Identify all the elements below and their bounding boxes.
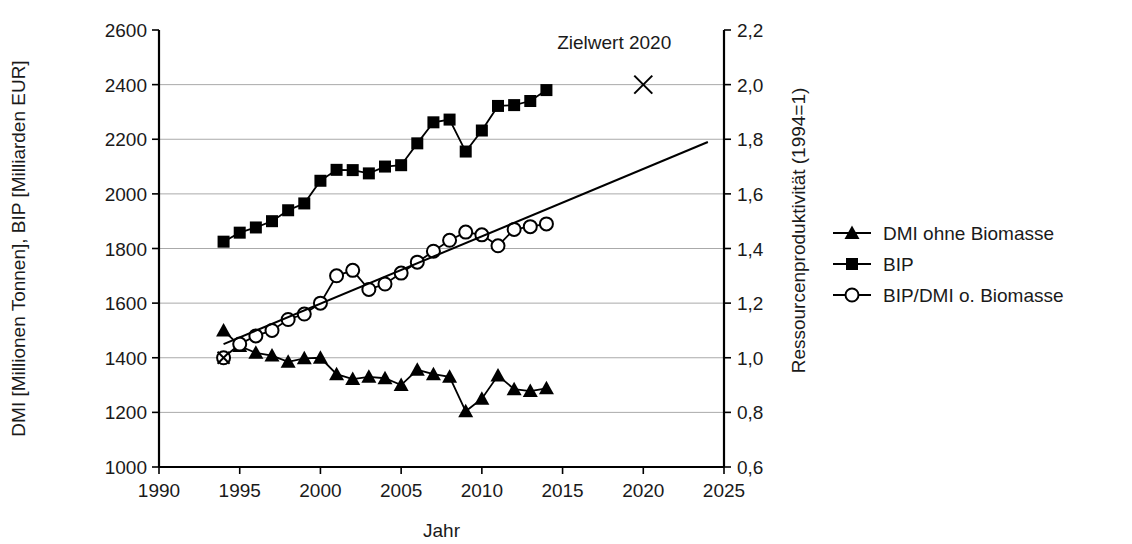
marker-square: [444, 114, 456, 126]
marker-square: [508, 99, 520, 111]
marker-square: [250, 221, 262, 233]
tick-label-x: 2000: [299, 480, 341, 501]
marker-triangle: [361, 369, 376, 383]
chart-figure: 1000120014001600180020002200240026000,60…: [0, 0, 1132, 544]
marker-square: [314, 175, 326, 187]
marker-square: [492, 100, 504, 112]
marker-circle: [492, 239, 505, 252]
marker-circle: [330, 269, 343, 282]
marker-triangle: [491, 368, 506, 382]
tick-label-x: 2020: [622, 480, 664, 501]
marker-circle: [346, 264, 359, 277]
tick-label-left: 2000: [105, 184, 147, 205]
tick-label-right: 2,0: [737, 75, 763, 96]
marker-square: [846, 258, 858, 270]
tick-label-x: 2015: [541, 480, 583, 501]
marker-square: [427, 116, 439, 128]
marker-square: [218, 236, 230, 248]
tick-label-x: 2010: [461, 480, 503, 501]
marker-square: [395, 159, 407, 171]
marker-circle: [524, 220, 537, 233]
tick-label-x: 1990: [138, 480, 180, 501]
marker-triangle: [458, 404, 473, 418]
marker-triangle: [410, 362, 425, 376]
tick-label-left: 1200: [105, 402, 147, 423]
marker-triangle: [216, 323, 231, 337]
tick-label-left: 1000: [105, 457, 147, 478]
marker-square: [476, 125, 488, 137]
tick-label-right: 2,2: [737, 20, 763, 41]
tick-label-x: 2025: [703, 480, 745, 501]
legend-label: BIP/DMI o. Biomasse: [883, 285, 1064, 306]
marker-square: [411, 137, 423, 149]
marker-square: [331, 164, 343, 176]
tick-label-right: 1,0: [737, 348, 763, 369]
marker-square: [540, 84, 552, 96]
tick-label-right: 1,6: [737, 184, 763, 205]
marker-circle: [459, 226, 472, 239]
marker-triangle: [539, 381, 554, 395]
series-3: [217, 217, 553, 364]
marker-square: [363, 167, 375, 179]
marker-triangle: [248, 345, 263, 359]
marker-square: [379, 161, 391, 173]
legend-label: DMI ohne Biomasse: [883, 223, 1054, 244]
marker-triangle: [313, 350, 328, 364]
tick-label-left: 2200: [105, 129, 147, 150]
tick-label-left: 2400: [105, 75, 147, 96]
tick-label-left: 1400: [105, 348, 147, 369]
legend-item-1[interactable]: DMI ohne Biomasse: [833, 223, 1054, 244]
legend-label: BIP: [883, 254, 914, 275]
legend: DMI ohne BiomasseBIPBIP/DMI o. Biomasse: [833, 223, 1064, 306]
tick-label-x: 2005: [380, 480, 422, 501]
chart-canvas: 1000120014001600180020002200240026000,60…: [0, 0, 1132, 544]
legend-item-2[interactable]: BIP: [833, 254, 914, 275]
marker-circle: [540, 217, 553, 230]
trendline: [224, 142, 708, 344]
series-1: [216, 323, 554, 417]
tick-label-right: 1,2: [737, 293, 763, 314]
tick-label-right: 0,8: [737, 402, 763, 423]
marker-circle: [443, 234, 456, 247]
tick-label-left: 1600: [105, 293, 147, 314]
series-2: [218, 84, 553, 248]
marker-triangle: [474, 391, 489, 405]
marker-square: [234, 227, 246, 239]
marker-square: [282, 204, 294, 216]
tick-label-right: 1,8: [737, 129, 763, 150]
tick-label-x: 1995: [219, 480, 261, 501]
y-axis-label-right: Ressourcenproduktivität (1994=1): [788, 88, 809, 374]
legend-item-3[interactable]: BIP/DMI o. Biomasse: [833, 285, 1064, 306]
marker-square: [524, 95, 536, 107]
marker-square: [298, 197, 310, 209]
tick-label-left: 2600: [105, 20, 147, 41]
marker-square: [347, 164, 359, 176]
x-axis-label: Jahr: [423, 520, 461, 541]
y-axis-label-left: DMI [Millionen Tonnen], BIP [Milliarden …: [8, 60, 29, 436]
marker-square: [266, 215, 278, 227]
annotation-label: Zielwert 2020: [557, 32, 671, 53]
tick-label-right: 1,4: [737, 239, 764, 260]
marker-circle: [846, 289, 859, 302]
tick-label-left: 1800: [105, 239, 147, 260]
marker-square: [460, 146, 472, 158]
tick-label-right: 0,6: [737, 457, 763, 478]
